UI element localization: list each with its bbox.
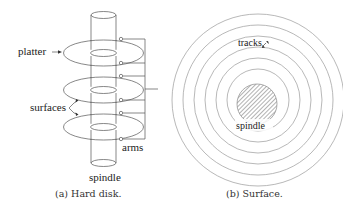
surfaces-label: surfaces <box>30 101 66 113</box>
tracks-arrows-icon <box>262 41 269 48</box>
spindle-label-a: spindle <box>89 171 121 183</box>
hard-disk-figure: platter surfaces spindle arms (a) Hard d… <box>0 0 343 211</box>
platter-label: platter <box>18 45 46 57</box>
spindle-hatched <box>237 84 277 124</box>
caption-b: (b) Surface. <box>226 188 283 199</box>
platter-2 <box>64 77 144 103</box>
platter-3 <box>64 114 144 140</box>
tracks-label: tracks <box>238 37 262 48</box>
arms-label: arms <box>122 141 143 153</box>
surfaces-arrows-icon <box>69 99 79 116</box>
spindle-label-b: spindle <box>236 120 265 131</box>
platter-1 <box>64 40 144 66</box>
platter-arrow-icon <box>52 50 62 53</box>
caption-a: (a) Hard disk. <box>55 188 121 199</box>
